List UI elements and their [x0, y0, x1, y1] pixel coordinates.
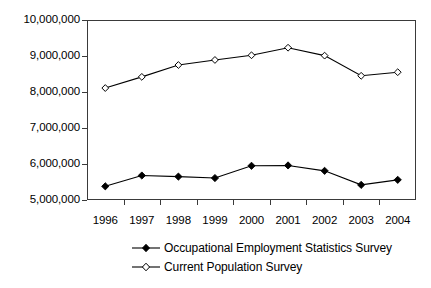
- x-axis-tick-label: 2004: [385, 214, 410, 226]
- y-axis-tick-mark: [82, 20, 87, 21]
- y-axis-tick-mark: [82, 56, 87, 57]
- x-axis-tick-label: 1998: [166, 214, 191, 226]
- x-axis-tick-mark: [379, 200, 380, 205]
- x-axis-tick-label: 2002: [312, 214, 337, 226]
- x-axis-tick-mark: [197, 200, 198, 205]
- x-axis-tick-mark: [160, 200, 161, 205]
- line-chart: 5,000,0006,000,0007,000,0008,000,0009,00…: [0, 0, 431, 288]
- x-axis-tick-mark: [343, 200, 344, 205]
- legend-item-cps[interactable]: Current Population Survey: [131, 257, 421, 276]
- chart-legend: Occupational Employment Statistics Surve…: [131, 238, 421, 276]
- x-axis-tick-label: 2003: [349, 214, 374, 226]
- x-axis-tick-mark: [124, 200, 125, 205]
- y-axis: 5,000,0006,000,0007,000,0008,000,0009,00…: [0, 0, 80, 288]
- x-axis-tick-label: 2000: [239, 214, 264, 226]
- y-axis-tick-mark: [82, 128, 87, 129]
- legend-label-cps: Current Population Survey: [164, 260, 302, 274]
- x-axis-tick-mark: [270, 200, 271, 205]
- x-axis-tick-mark: [306, 200, 307, 205]
- y-axis-tick-label: 7,000,000: [0, 122, 80, 134]
- legend-label-oes: Occupational Employment Statistics Surve…: [164, 241, 392, 255]
- y-axis-tick-label: 8,000,000: [0, 86, 80, 98]
- filled-diamond-marker-icon: [131, 241, 161, 255]
- x-axis-tick-label: 1997: [129, 214, 154, 226]
- plot-area: [87, 20, 416, 200]
- x-axis-tick-mark: [233, 200, 234, 205]
- y-axis-tick-mark: [82, 200, 87, 201]
- legend-item-oes[interactable]: Occupational Employment Statistics Surve…: [131, 238, 421, 257]
- open-diamond-marker-icon: [131, 260, 161, 274]
- y-axis-tick-label: 10,000,000: [0, 14, 80, 26]
- y-axis-tick-mark: [82, 164, 87, 165]
- y-axis-tick-label: 5,000,000: [0, 194, 80, 206]
- x-axis-tick-label: 2001: [275, 214, 300, 226]
- x-axis-tick-label: 1999: [202, 214, 227, 226]
- x-axis-tick-label: 1996: [93, 214, 118, 226]
- y-axis-tick-mark: [82, 92, 87, 93]
- y-axis-tick-label: 9,000,000: [0, 50, 80, 62]
- y-axis-tick-label: 6,000,000: [0, 158, 80, 170]
